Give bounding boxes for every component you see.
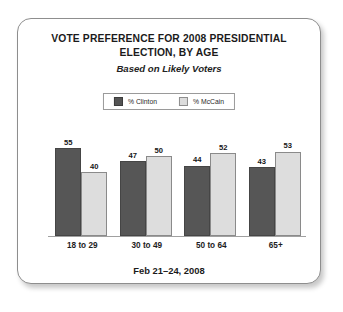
x-axis-line <box>48 236 306 238</box>
x-axis-tick-label: 65+ <box>269 241 283 250</box>
x-axis-labels: 18 to 2930 to 4950 to 6465+ <box>48 241 306 255</box>
bar-value-label: 44 <box>193 156 201 164</box>
chart-card: VOTE PREFERENCE FOR 2008 PRESIDENTIAL EL… <box>17 18 321 284</box>
bar-clinton[interactable] <box>249 167 275 235</box>
x-axis-tick-label: 30 to 49 <box>132 241 163 250</box>
bar-wrapper: 50 <box>146 128 172 236</box>
chart-subtitle: Based on Likely Voters <box>18 63 320 74</box>
legend-label-clinton: % Clinton <box>128 98 157 105</box>
bar-group: 4353 <box>249 128 303 236</box>
bar-wrapper: 53 <box>275 128 301 236</box>
chart-legend: % Clinton % McCain <box>103 93 235 110</box>
bar-group: 4750 <box>120 128 174 236</box>
bar-mccain[interactable] <box>210 153 236 235</box>
bar-wrapper: 52 <box>210 128 236 236</box>
bar-group: 4452 <box>184 128 238 236</box>
legend-item-mccain: % McCain <box>179 97 224 106</box>
bar-value-label: 55 <box>64 139 72 147</box>
bar-mccain[interactable] <box>81 172 107 235</box>
bar-value-label: 40 <box>90 163 98 171</box>
legend-label-mccain: % McCain <box>193 98 224 105</box>
bar-value-label: 43 <box>258 158 266 166</box>
bar-wrapper: 47 <box>120 128 146 236</box>
chart-footnote: Feb 21–24, 2008 <box>18 265 320 276</box>
title-block: VOTE PREFERENCE FOR 2008 PRESIDENTIAL EL… <box>18 32 320 74</box>
bar-wrapper: 44 <box>184 128 210 236</box>
bar-clinton[interactable] <box>120 161 146 235</box>
bar-wrapper: 55 <box>55 128 81 236</box>
bar-group: 5540 <box>55 128 109 236</box>
bar-value-label: 47 <box>129 152 137 160</box>
x-axis-tick-label: 50 to 64 <box>196 241 227 250</box>
bar-mccain[interactable] <box>275 152 301 236</box>
bar-clinton[interactable] <box>184 166 210 236</box>
legend-item-clinton: % Clinton <box>114 97 157 106</box>
bar-clinton[interactable] <box>55 148 81 235</box>
bar-value-label: 53 <box>284 142 292 150</box>
clinton-swatch-icon <box>114 97 123 106</box>
bar-value-label: 52 <box>219 144 227 152</box>
bar-mccain[interactable] <box>146 156 172 235</box>
x-axis-tick-label: 18 to 29 <box>67 241 98 250</box>
bar-wrapper: 43 <box>249 128 275 236</box>
plot-area: 5540475044524353 <box>48 129 306 237</box>
mccain-swatch-icon <box>179 97 188 106</box>
bar-value-label: 50 <box>155 147 163 155</box>
bar-wrapper: 40 <box>81 128 107 236</box>
page-title: VOTE PREFERENCE FOR 2008 PRESIDENTIAL EL… <box>18 32 320 59</box>
